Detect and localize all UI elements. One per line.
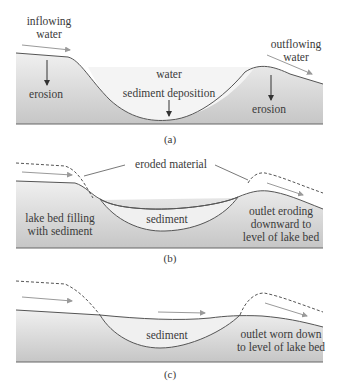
eroded-material-label: eroded material bbox=[135, 158, 207, 170]
panel-a: inflowing water outflowing water water s… bbox=[16, 15, 323, 146]
outlet-label-c-2: to level of lake bed bbox=[237, 341, 325, 353]
leader-right bbox=[215, 165, 248, 180]
panel-c: sediment outlet worn down to level of la… bbox=[16, 281, 325, 381]
sediment-label-b: sediment bbox=[146, 213, 188, 225]
panel-b: eroded material lake bed filling with se… bbox=[16, 158, 323, 265]
outflowing-label-2: water bbox=[283, 51, 309, 63]
caption-a: (a) bbox=[164, 133, 177, 146]
inflow-arrow bbox=[22, 45, 70, 50]
sediment-deposition-label: sediment deposition bbox=[123, 87, 216, 100]
sediment-label-c: sediment bbox=[146, 329, 188, 341]
outflowing-label-1: outflowing bbox=[271, 38, 322, 51]
outlet-label-b-1: outlet eroding bbox=[249, 205, 313, 218]
water-label: water bbox=[156, 68, 182, 80]
inflowing-label-1: inflowing bbox=[27, 15, 72, 28]
outlet-label-b-2: downward to bbox=[251, 218, 312, 230]
outlet-label-b-3: level of lake bed bbox=[243, 231, 320, 243]
outlet-label-c-1: outlet worn down bbox=[240, 328, 321, 340]
erosion-label-left: erosion bbox=[29, 88, 63, 100]
lake-bed-label-2: with sediment bbox=[28, 225, 94, 237]
lake-sediment-diagram: inflowing water outflowing water water s… bbox=[0, 0, 341, 384]
caption-b: (b) bbox=[164, 252, 177, 265]
caption-c: (c) bbox=[164, 368, 177, 381]
erosion-label-right: erosion bbox=[252, 103, 286, 115]
lake-bed-label-1: lake bed filling bbox=[25, 212, 95, 225]
inflowing-label-2: water bbox=[36, 28, 62, 40]
leader-left bbox=[84, 165, 125, 176]
